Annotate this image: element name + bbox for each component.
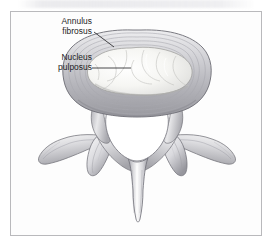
label-annulus-line1: Annulus [22, 16, 92, 26]
spinous-process [128, 158, 148, 222]
label-nucleus-line2: pulposus [20, 62, 92, 72]
vertebra-illustration [0, 0, 274, 248]
vertebral-arch [38, 107, 235, 222]
label-annulus-line2: fibrosus [22, 26, 92, 36]
label-annulus-fibrosus: Annulus fibrosus [22, 16, 92, 36]
intervertebral-disc [63, 30, 211, 117]
figure-root: Annulus fibrosus Nucleus pulposus [0, 0, 274, 248]
label-nucleus-line1: Nucleus [20, 52, 92, 62]
label-nucleus-pulposus: Nucleus pulposus [20, 52, 92, 72]
